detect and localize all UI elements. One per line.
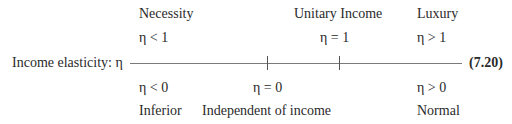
independent-label: Independent of income — [202, 103, 331, 119]
inferior-label: Inferior — [139, 103, 182, 119]
axis-label: Income elasticity: η — [12, 55, 123, 71]
luxury-condition: η > 1 — [417, 30, 446, 46]
necessity-label: Necessity — [139, 6, 193, 22]
tick-zero — [267, 56, 268, 70]
unitary-label: Unitary Income — [294, 6, 382, 22]
unitary-condition: η = 1 — [320, 30, 349, 46]
normal-condition: η > 0 — [417, 80, 446, 96]
necessity-condition: η < 1 — [139, 30, 168, 46]
inferior-condition: η < 0 — [139, 80, 168, 96]
independent-condition: η = 0 — [253, 80, 282, 96]
luxury-label: Luxury — [417, 6, 458, 22]
tick-one — [339, 56, 340, 70]
elasticity-axis-line — [130, 63, 462, 64]
equation-number: (7.20) — [469, 55, 503, 71]
normal-label: Normal — [417, 103, 460, 119]
